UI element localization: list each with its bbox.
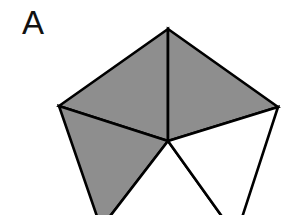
triangles xyxy=(59,29,278,215)
pentagon-diagram xyxy=(0,0,296,215)
